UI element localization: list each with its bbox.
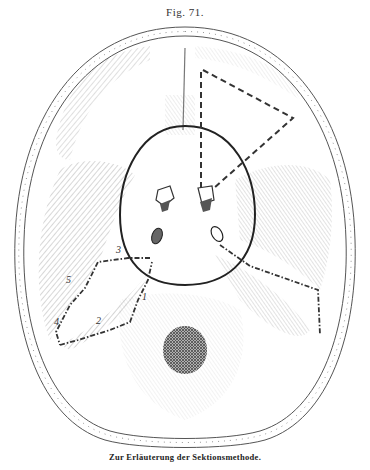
middle-fossa-right-shading — [235, 165, 332, 290]
foramen-right — [209, 225, 226, 244]
skull-base-illustration: 3 5 4 2 1 — [0, 0, 370, 470]
label-5: 5 — [66, 274, 71, 285]
foramen-left — [150, 227, 165, 245]
clinoid-processes — [156, 186, 214, 212]
label-4: 4 — [54, 316, 59, 327]
anterior-fossa-right-shading — [195, 46, 300, 100]
anterior-fossa-left-shading — [56, 46, 150, 160]
label-3: 3 — [115, 244, 121, 255]
label-1: 1 — [142, 291, 147, 302]
label-2: 2 — [96, 315, 101, 326]
sella-section-oval — [120, 126, 255, 285]
figure-caption: Zur Erläuterung der Sektionsmethode. — [0, 452, 370, 462]
